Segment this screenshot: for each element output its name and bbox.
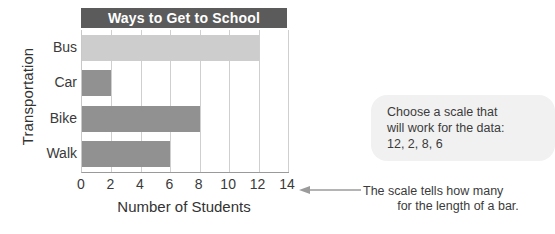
x-tick-4: 4 (136, 176, 144, 192)
bar-walk (82, 141, 170, 167)
chart-title-text: Ways to Get to School (108, 10, 260, 26)
x-axis-tick-labels: 02468101214 (81, 176, 287, 194)
bar-car (82, 70, 111, 96)
category-label-car: Car (35, 74, 77, 90)
callout-line-3: 12, 2, 8, 6 (387, 136, 555, 152)
bar-row (82, 35, 288, 61)
bar-row (82, 141, 288, 167)
bar-bus (82, 35, 259, 61)
x-axis-title: Number of Students (60, 198, 308, 215)
x-tick-14: 14 (279, 176, 295, 192)
x-tick-0: 0 (77, 176, 85, 192)
plot-area (81, 30, 289, 173)
category-label-walk: Walk (35, 145, 77, 161)
x-tick-2: 2 (107, 176, 115, 192)
x-tick-10: 10 (220, 176, 236, 192)
chart-title-bar: Ways to Get to School (81, 8, 287, 28)
scale-callout-bubble: Choose a scale that will work for the da… (371, 95, 555, 161)
category-axis-labels: BusCarBikeWalk (31, 30, 77, 172)
note-line-2: for the length of a bar. (363, 199, 553, 214)
category-label-bike: Bike (35, 110, 77, 126)
bar-row (82, 106, 288, 132)
note-line-1: The scale tells how many (363, 184, 553, 199)
category-label-bus: Bus (35, 39, 77, 55)
left-arrow-icon (299, 184, 361, 196)
x-tick-8: 8 (195, 176, 203, 192)
bar-row (82, 70, 288, 96)
callout-line-1: Choose a scale that (387, 104, 555, 120)
bar-chart-figure: Transportation Ways to Get to School Bus… (0, 0, 300, 234)
x-tick-12: 12 (250, 176, 266, 192)
gridline (288, 30, 289, 172)
callout-line-2: will work for the data: (387, 120, 555, 136)
bar-bike (82, 106, 200, 132)
scale-note-text: The scale tells how many for the length … (363, 184, 553, 214)
x-tick-6: 6 (165, 176, 173, 192)
